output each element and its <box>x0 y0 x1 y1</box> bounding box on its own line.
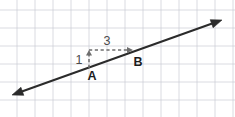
point-a-label: A <box>87 69 96 83</box>
geometry-figure: 1 3 A B <box>0 0 235 117</box>
figure-canvas: 1 3 A B <box>0 0 235 117</box>
point-b-label: B <box>133 55 142 69</box>
run-value-label: 3 <box>104 34 111 48</box>
rise-value-label: 1 <box>76 53 83 67</box>
